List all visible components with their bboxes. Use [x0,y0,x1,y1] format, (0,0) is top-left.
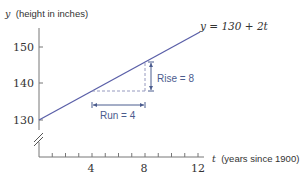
y-axis-label: y (height in inches) [4,8,88,19]
x-axis-label: t (years since 1900) [212,153,299,164]
run-label: Run = 4 [100,110,136,121]
x-tick-label-12: 12 [191,162,205,175]
y-tick-label-150: 150 [13,41,34,54]
y-tick-label-130: 130 [13,114,34,127]
x-tick-label-4: 4 [88,162,95,175]
equation-label: y = 130 + 2t [199,20,269,32]
rise-arrow-icon [148,62,154,91]
y-ticks [39,47,43,120]
run-arrow-icon [92,102,145,108]
rise-label: Rise = 8 [157,73,194,84]
x-ticks [52,153,198,157]
x-tick-label-8: 8 [141,162,148,175]
chart: 150 140 130 4 8 12 y (height in inches) … [0,0,304,187]
y-tick-label-140: 140 [13,77,34,90]
